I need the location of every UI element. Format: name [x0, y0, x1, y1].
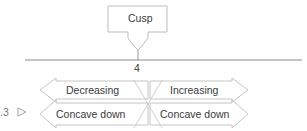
- sign-chart-diagram: [0, 0, 307, 131]
- margin-note-label: .3: [0, 106, 9, 118]
- right-bottom-label: Concave down: [160, 108, 229, 120]
- left-top-label: Decreasing: [66, 84, 119, 96]
- play-outline-icon: [18, 108, 26, 116]
- cusp-label: Cusp: [128, 12, 153, 24]
- right-top-label: Increasing: [170, 84, 218, 96]
- left-bottom-label: Concave down: [56, 108, 125, 120]
- tick-label-4: 4: [134, 62, 140, 74]
